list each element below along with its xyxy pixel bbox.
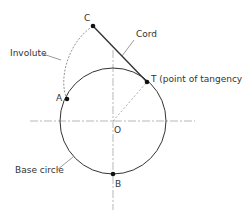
label-involute: Involute	[10, 49, 46, 58]
label-b: B	[115, 180, 121, 189]
cord-leader	[122, 40, 134, 56]
point-a	[65, 97, 70, 102]
label-t: T (point of tangency)	[151, 75, 242, 84]
point-t	[145, 80, 150, 85]
radius-o-t	[113, 82, 147, 121]
label-c: C	[84, 14, 90, 23]
label-base-circle: Base circle	[15, 166, 64, 175]
involute-curve	[64, 26, 93, 99]
label-cord: Cord	[136, 30, 157, 39]
label-a: A	[56, 94, 62, 103]
point-b	[111, 172, 116, 177]
point-c	[91, 24, 96, 29]
label-o: O	[114, 126, 121, 135]
